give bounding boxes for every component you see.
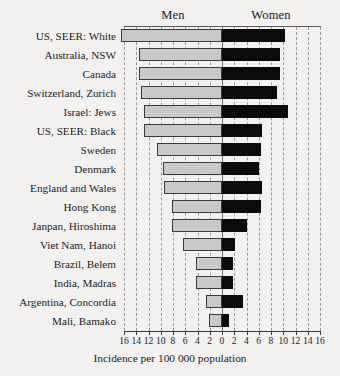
bar-women: [222, 29, 285, 42]
bar-men: [183, 238, 222, 251]
row-label: US, SEER: Black: [0, 123, 116, 140]
row-label: US, SEER: White: [0, 28, 116, 45]
legend-men-label: Men: [124, 8, 222, 23]
row-label: Viet Nam, Hanoi: [0, 237, 116, 254]
bar-men: [144, 105, 222, 118]
table-row: US, SEER: White: [0, 27, 340, 46]
bar-men: [209, 314, 222, 327]
table-row: Israel: Jews: [0, 103, 340, 122]
bar-men: [196, 276, 222, 289]
bar-men: [164, 181, 222, 194]
table-row: Australia, NSW: [0, 46, 340, 65]
table-row: Viet Nam, Hanoi: [0, 236, 340, 255]
bar-women: [222, 48, 280, 61]
table-row: Janpan, Hiroshima: [0, 217, 340, 236]
bar-men: [157, 143, 222, 156]
table-row: Mali, Bamako: [0, 312, 340, 331]
table-row: Canada: [0, 65, 340, 84]
table-row: US, SEER: Black: [0, 122, 340, 141]
bar-women: [222, 257, 233, 270]
row-label: Australia, NSW: [0, 47, 116, 64]
incidence-bar-chart: Men Women US, SEER: WhiteAustralia, NSWC…: [0, 0, 340, 376]
bar-women: [222, 162, 259, 175]
legend-women-label: Women: [222, 8, 320, 23]
bar-men: [196, 257, 222, 270]
row-label: Hong Kong: [0, 199, 116, 216]
row-label: India, Madras: [0, 275, 116, 292]
bar-men: [163, 162, 222, 175]
bar-women: [222, 200, 261, 213]
row-label: Mali, Bamako: [0, 313, 116, 330]
bar-women: [222, 105, 288, 118]
table-row: Sweden: [0, 141, 340, 160]
bar-men: [144, 124, 222, 137]
axis-tick-label: 16: [311, 335, 329, 346]
row-label: Israel: Jews: [0, 104, 116, 121]
bar-rows: US, SEER: WhiteAustralia, NSWCanadaSwitz…: [0, 27, 340, 331]
bar-women: [222, 295, 243, 308]
bar-men: [172, 200, 222, 213]
bar-women: [222, 276, 233, 289]
row-label: England and Wales: [0, 180, 116, 197]
bar-women: [222, 67, 280, 80]
table-row: Brazil, Belem: [0, 255, 340, 274]
bar-men: [141, 86, 222, 99]
bar-women: [222, 86, 277, 99]
table-row: Argentina, Concordia: [0, 293, 340, 312]
bar-women: [222, 181, 262, 194]
row-label: Denmark: [0, 161, 116, 178]
bar-men: [139, 48, 222, 61]
table-row: India, Madras: [0, 274, 340, 293]
row-label: Canada: [0, 66, 116, 83]
table-row: England and Wales: [0, 179, 340, 198]
bar-men: [206, 295, 222, 308]
bar-women: [222, 124, 262, 137]
bar-women: [222, 219, 247, 232]
row-label: Switzerland, Zurich: [0, 85, 116, 102]
x-axis-title: Incidence per 100 000 population: [0, 352, 340, 364]
table-row: Hong Kong: [0, 198, 340, 217]
bar-men: [172, 219, 222, 232]
bar-women: [222, 238, 235, 251]
x-axis-tick-labels: 1614121086420246810121416: [0, 335, 340, 349]
row-label: Janpan, Hiroshima: [0, 218, 116, 235]
row-label: Brazil, Belem: [0, 256, 116, 273]
bar-men: [139, 67, 222, 80]
table-row: Switzerland, Zurich: [0, 84, 340, 103]
row-label: Argentina, Concordia: [0, 294, 116, 311]
row-label: Sweden: [0, 142, 116, 159]
bar-men: [121, 29, 222, 42]
bar-women: [222, 143, 261, 156]
bar-women: [222, 314, 229, 327]
group-legend: Men Women: [0, 8, 340, 26]
table-row: Denmark: [0, 160, 340, 179]
